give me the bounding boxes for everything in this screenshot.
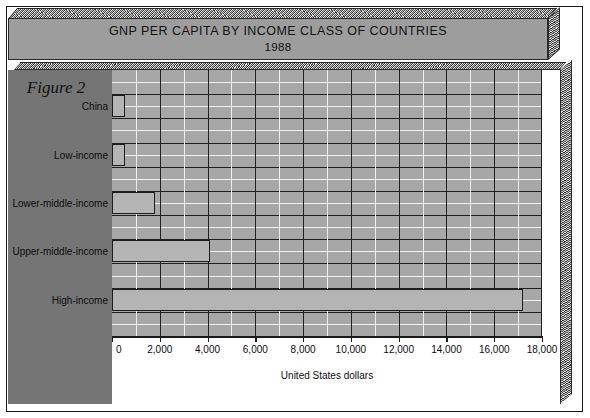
category-label-china: China bbox=[82, 101, 108, 112]
x-tick bbox=[351, 336, 352, 342]
bar-china bbox=[112, 95, 125, 117]
left-panel: Figure 2 bbox=[8, 70, 112, 404]
bar-upper-middle-income bbox=[112, 240, 210, 262]
x-axis-line bbox=[112, 336, 543, 338]
bar-lower-middle-income bbox=[112, 192, 155, 214]
chart-title-year: 1988 bbox=[265, 40, 292, 54]
category-label-high-income: High-income bbox=[52, 294, 108, 305]
x-tick-label: 18,000 bbox=[527, 344, 558, 355]
x-tick-label: 12,000 bbox=[383, 344, 414, 355]
x-tick bbox=[255, 336, 256, 342]
plot-top-bevel bbox=[14, 62, 566, 70]
x-tick bbox=[112, 336, 113, 342]
x-tick-label: 8,000 bbox=[291, 344, 316, 355]
x-tick-label: 10,000 bbox=[336, 344, 367, 355]
figure-root: GNP PER CAPITA BY INCOME CLASS OF COUNTR… bbox=[0, 0, 590, 418]
title-slab: GNP PER CAPITA BY INCOME CLASS OF COUNTR… bbox=[8, 8, 560, 60]
x-tick-label: 14,000 bbox=[431, 344, 462, 355]
x-tick-label: 4,000 bbox=[195, 344, 220, 355]
x-tick-label: 6,000 bbox=[243, 344, 268, 355]
x-tick bbox=[446, 336, 447, 342]
x-tick bbox=[303, 336, 304, 342]
x-tick bbox=[494, 336, 495, 342]
title-face: GNP PER CAPITA BY INCOME CLASS OF COUNTR… bbox=[8, 18, 548, 60]
x-tick bbox=[208, 336, 209, 342]
plot-right-bevel bbox=[560, 60, 572, 404]
chart-title-line1: GNP PER CAPITA BY INCOME CLASS OF COUNTR… bbox=[109, 24, 447, 40]
figure-label: Figure 2 bbox=[8, 78, 104, 98]
x-tick-label: 2,000 bbox=[147, 344, 172, 355]
x-tick bbox=[542, 336, 543, 342]
bar-low-income bbox=[112, 144, 125, 166]
x-tick bbox=[399, 336, 400, 342]
x-tick bbox=[160, 336, 161, 342]
x-tick-label: 0 bbox=[116, 344, 122, 355]
category-label-lower-middle-income: Lower-middle-income bbox=[12, 198, 108, 209]
category-label-upper-middle-income: Upper-middle-income bbox=[12, 246, 108, 257]
bar-high-income bbox=[112, 289, 523, 311]
x-axis-title: United States dollars bbox=[112, 370, 542, 381]
category-label-low-income: Low-income bbox=[54, 149, 108, 160]
plot-area bbox=[112, 70, 542, 336]
x-tick-label: 16,000 bbox=[479, 344, 510, 355]
title-right-bevel bbox=[548, 7, 560, 60]
